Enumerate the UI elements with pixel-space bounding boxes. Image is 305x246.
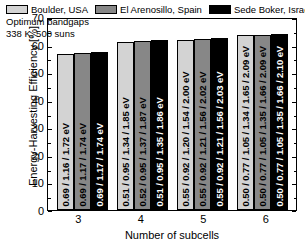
- bar-value-label: 0.51 / 0.95 / 1.35 / 1.86 eV: [155, 97, 165, 206]
- bar-3-series-2[interactable]: 0.69 / 1.17 / 1.74 eV: [91, 52, 108, 210]
- x-tick-6: 6: [238, 213, 293, 225]
- bar-groups: 0.69 / 1.16 / 1.72 eV0.69 / 1.17 / 1.74 …: [48, 19, 296, 210]
- x-axis-tick-labels: 3456: [47, 213, 297, 225]
- axis-tick-mark: [48, 74, 52, 75]
- axis-minor-tick: [294, 60, 297, 61]
- axis-minor-tick: [294, 143, 297, 144]
- y-tick-40: 40: [22, 95, 44, 106]
- axis-tick-mark: [292, 19, 296, 20]
- bar-value-label: 0.50 / 0.77 / 1.05 / 1.35 / 1.66 / 2.09 …: [258, 45, 268, 206]
- annotation-text: Optimum bandgaps 338 K, 500 suns: [6, 16, 89, 40]
- legend-item-2: Sede Boker, Israel: [209, 4, 305, 15]
- bar-value-label: 0.50 / 0.77 / 1.05 / 1.34 / 1.65 / 2.09 …: [241, 45, 251, 206]
- bar-group-6: 0.50 / 0.77 / 1.05 / 1.34 / 1.65 / 2.09 …: [237, 19, 288, 210]
- legend-label: Sede Boker, Israel: [234, 4, 305, 15]
- bar-value-label: 0.52 / 0.95 / 1.37 / 1.87 eV: [138, 97, 148, 206]
- y-tick-0: 0: [22, 206, 44, 217]
- axis-minor-tick: [294, 198, 297, 199]
- legend: Boulder, USAEl Arenosillo, SpainSede Bok…: [6, 4, 305, 15]
- axis-minor-tick: [294, 88, 297, 89]
- annotation-line-2: 338 K, 500 suns: [6, 28, 89, 40]
- bar-group-3: 0.69 / 1.16 / 1.72 eV0.69 / 1.17 / 1.74 …: [57, 19, 108, 210]
- axis-tick-mark: [48, 211, 52, 212]
- y-tick-20: 20: [22, 150, 44, 161]
- bar-6-series-2[interactable]: 0.50 / 0.77 / 1.05 / 1.35 / 1.66 / 2.10 …: [271, 34, 288, 210]
- legend-item-1: El Arenosillo, Spain: [95, 4, 202, 15]
- legend-swatch-icon: [6, 5, 28, 14]
- x-tick-3: 3: [51, 213, 106, 225]
- bar-value-label: 0.69 / 1.17 / 1.74 eV: [95, 123, 105, 206]
- bar-group-5: 0.55 / 0.92 / 1.20 / 1.54 / 2.00 eV0.55 …: [177, 19, 228, 210]
- x-axis-title: Number of subcells: [47, 229, 297, 241]
- legend-label: Boulder, USA: [31, 4, 88, 15]
- axis-tick-mark: [48, 184, 52, 185]
- bar-3-series-0[interactable]: 0.69 / 1.16 / 1.72 eV: [57, 54, 74, 210]
- axis-tick-mark: [292, 184, 296, 185]
- plot-area: 0.69 / 1.16 / 1.72 eV0.69 / 1.17 / 1.74 …: [47, 18, 297, 211]
- annotation-line-1: Optimum bandgaps: [6, 16, 89, 28]
- axis-minor-tick: [48, 171, 51, 172]
- bar-5-series-0[interactable]: 0.55 / 0.92 / 1.20 / 1.54 / 2.00 eV: [177, 40, 194, 210]
- axis-minor-tick: [48, 198, 51, 199]
- bar-value-label: 0.50 / 0.77 / 1.05 / 1.35 / 1.66 / 2.10 …: [275, 45, 285, 206]
- y-tick-30: 30: [22, 123, 44, 134]
- axis-minor-tick: [48, 88, 51, 89]
- x-tick-5: 5: [176, 213, 231, 225]
- bar-value-label: 0.69 / 1.16 / 1.72 eV: [61, 123, 71, 206]
- y-tick-50: 50: [22, 68, 44, 79]
- x-tick-4: 4: [113, 213, 168, 225]
- bar-value-label: 0.55 / 0.92 / 1.21 / 1.56 / 2.03 eV: [215, 71, 225, 206]
- bar-6-series-0[interactable]: 0.50 / 0.77 / 1.05 / 1.34 / 1.65 / 2.09 …: [237, 35, 254, 210]
- axis-tick-mark: [292, 129, 296, 130]
- bar-6-series-1[interactable]: 0.50 / 0.77 / 1.05 / 1.35 / 1.66 / 2.09 …: [254, 35, 271, 210]
- axis-minor-tick: [294, 171, 297, 172]
- axis-tick-mark: [48, 157, 52, 158]
- bar-4-series-2[interactable]: 0.51 / 0.95 / 1.35 / 1.86 eV: [151, 40, 168, 210]
- axis-tick-mark: [292, 74, 296, 75]
- bar-value-label: 0.55 / 0.92 / 1.21 / 1.56 / 2.02 eV: [198, 71, 208, 206]
- bar-4-series-1[interactable]: 0.52 / 0.95 / 1.37 / 1.87 eV: [134, 41, 151, 210]
- axis-minor-tick: [48, 60, 51, 61]
- legend-swatch-icon: [209, 5, 231, 14]
- axis-minor-tick: [294, 33, 297, 34]
- axis-tick-mark: [292, 211, 296, 212]
- y-tick-60: 60: [22, 40, 44, 51]
- bar-group-4: 0.51 / 0.95 / 1.34 / 1.85 eV0.52 / 0.95 …: [117, 19, 168, 210]
- bar-value-label: 0.51 / 0.95 / 1.34 / 1.85 eV: [121, 97, 131, 206]
- axis-tick-mark: [292, 47, 296, 48]
- bar-value-label: 0.55 / 0.92 / 1.20 / 1.54 / 2.00 eV: [181, 71, 191, 206]
- legend-label: El Arenosillo, Spain: [120, 4, 202, 15]
- y-tick-10: 10: [22, 178, 44, 189]
- axis-tick-mark: [48, 47, 52, 48]
- bar-5-series-2[interactable]: 0.55 / 0.92 / 1.21 / 1.56 / 2.03 eV: [211, 38, 228, 210]
- legend-item-0: Boulder, USA: [6, 4, 88, 15]
- axis-minor-tick: [48, 116, 51, 117]
- bar-3-series-1[interactable]: 0.69 / 1.17 / 1.74 eV: [74, 53, 91, 210]
- axis-tick-mark: [292, 102, 296, 103]
- axis-minor-tick: [294, 116, 297, 117]
- axis-tick-mark: [48, 102, 52, 103]
- legend-swatch-icon: [95, 5, 117, 14]
- bar-value-label: 0.69 / 1.17 / 1.74 eV: [78, 123, 88, 206]
- chart-figure: Energy-Harvesting Efficiency [%] 7060504…: [0, 0, 305, 246]
- axis-tick-mark: [48, 129, 52, 130]
- bar-5-series-1[interactable]: 0.55 / 0.92 / 1.21 / 1.56 / 2.02 eV: [194, 39, 211, 210]
- axis-minor-tick: [48, 143, 51, 144]
- bar-4-series-0[interactable]: 0.51 / 0.95 / 1.34 / 1.85 eV: [117, 42, 134, 210]
- axis-tick-mark: [292, 157, 296, 158]
